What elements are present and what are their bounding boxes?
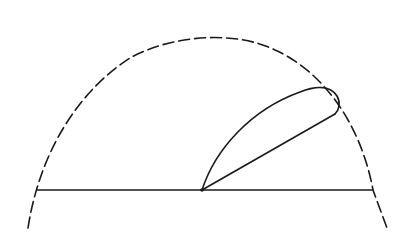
- dashed-envelope-arc: [28, 38, 387, 228]
- origin-point: [200, 188, 204, 192]
- polar-diagram: [0, 0, 411, 247]
- main-lobe: [202, 88, 339, 190]
